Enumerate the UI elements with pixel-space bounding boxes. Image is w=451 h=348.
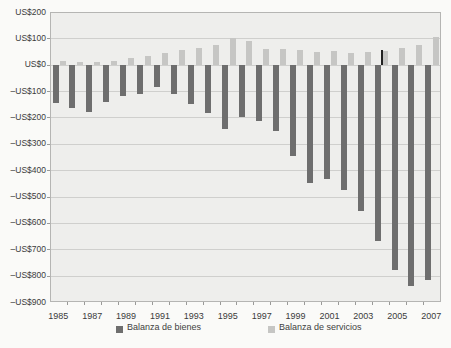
bar-bienes-1991 bbox=[154, 65, 160, 87]
x-axis-tick bbox=[169, 302, 170, 305]
y-axis-tick-label: –US$900 bbox=[0, 297, 46, 308]
bar-servicios-2000 bbox=[314, 52, 320, 64]
y-axis-tick-label: –US$500 bbox=[0, 191, 46, 202]
bar-servicios-1999 bbox=[297, 50, 303, 65]
bar-bienes-1998 bbox=[273, 65, 279, 131]
x-axis-tick bbox=[355, 302, 356, 305]
x-axis-tick bbox=[236, 302, 237, 305]
y-axis-tick bbox=[47, 144, 50, 145]
x-axis-tick-label: 1989 bbox=[109, 311, 143, 322]
x-axis-tick-label: 2005 bbox=[380, 311, 414, 322]
bar-bienes-2007 bbox=[425, 65, 431, 280]
x-axis-tick bbox=[118, 302, 119, 305]
bar-bienes-1990 bbox=[137, 65, 143, 94]
bar-bienes-2002 bbox=[341, 65, 347, 190]
x-axis-tick bbox=[203, 302, 204, 305]
bar-bienes-1993 bbox=[188, 65, 194, 105]
bar-servicios-2003 bbox=[365, 52, 371, 65]
gridline bbox=[51, 144, 440, 145]
x-axis-tick bbox=[186, 302, 187, 305]
x-axis-tick bbox=[101, 302, 102, 305]
x-axis-tick bbox=[270, 302, 271, 305]
x-axis-tick bbox=[372, 302, 373, 305]
bar-servicios-1991 bbox=[162, 53, 168, 65]
x-axis-tick-label: 1999 bbox=[279, 311, 313, 322]
bar-bienes-2000 bbox=[307, 65, 313, 184]
x-axis-tick bbox=[220, 302, 221, 305]
gridline bbox=[51, 65, 440, 66]
y-axis-tick bbox=[47, 65, 50, 66]
bar-bienes-2005 bbox=[392, 65, 398, 271]
gridline bbox=[51, 197, 440, 198]
y-axis-tick-label: US$100 bbox=[0, 33, 46, 44]
bar-servicios-2006 bbox=[416, 45, 422, 65]
bar-servicios-1990 bbox=[145, 56, 151, 65]
x-axis-tick-label: 1995 bbox=[211, 311, 245, 322]
x-axis-tick bbox=[135, 302, 136, 305]
gridline bbox=[51, 249, 440, 250]
bar-bienes-2001 bbox=[324, 65, 330, 180]
x-axis-tick bbox=[304, 302, 305, 305]
bar-bienes-1989 bbox=[120, 65, 126, 97]
x-axis-tick bbox=[253, 302, 254, 305]
gridline bbox=[51, 276, 440, 277]
x-axis-tick-label: 1997 bbox=[245, 311, 279, 322]
y-axis-tick bbox=[47, 117, 50, 118]
y-axis-tick-label: –US$400 bbox=[0, 165, 46, 176]
bar-servicios-2004 bbox=[382, 51, 388, 65]
print-artifact-line bbox=[381, 50, 383, 65]
y-axis-tick-label: US$200 bbox=[0, 7, 46, 18]
y-axis-tick-label: –US$700 bbox=[0, 244, 46, 255]
bar-servicios-1987 bbox=[94, 62, 100, 65]
chart-figure: Balanza de bienes Balanza de servicios U… bbox=[0, 0, 451, 348]
x-axis-tick bbox=[287, 302, 288, 305]
bar-bienes-2004 bbox=[375, 65, 381, 242]
bar-bienes-2003 bbox=[358, 65, 364, 211]
bar-servicios-2002 bbox=[348, 53, 354, 65]
bar-bienes-1985 bbox=[53, 65, 59, 103]
bar-bienes-1992 bbox=[171, 65, 177, 94]
y-axis-tick-label: –US$800 bbox=[0, 270, 46, 281]
bar-bienes-1988 bbox=[103, 65, 109, 102]
bar-bienes-1997 bbox=[256, 65, 262, 122]
bar-servicios-1986 bbox=[77, 62, 83, 65]
y-axis-tick-label: –US$100 bbox=[0, 86, 46, 97]
gridline bbox=[51, 38, 440, 39]
x-axis-tick-label: 1987 bbox=[75, 311, 109, 322]
bar-bienes-1994 bbox=[205, 65, 211, 114]
bar-bienes-1996 bbox=[239, 65, 245, 118]
y-axis-tick bbox=[47, 276, 50, 277]
bar-servicios-2007 bbox=[433, 37, 439, 65]
x-axis-tick bbox=[423, 302, 424, 305]
legend-label-bienes: Balanza de bienes bbox=[127, 322, 201, 333]
x-axis-tick bbox=[406, 302, 407, 305]
y-axis-tick bbox=[47, 170, 50, 171]
gridline bbox=[51, 117, 440, 118]
bar-servicios-1988 bbox=[111, 61, 117, 64]
y-axis-tick bbox=[47, 249, 50, 250]
x-axis-tick-label: 1991 bbox=[143, 311, 177, 322]
bar-servicios-2005 bbox=[399, 48, 405, 65]
y-axis-tick bbox=[47, 223, 50, 224]
bar-servicios-1985 bbox=[60, 61, 66, 65]
x-axis-tick bbox=[152, 302, 153, 305]
bar-servicios-1992 bbox=[179, 50, 185, 65]
x-axis-tick-label: 1985 bbox=[41, 311, 75, 322]
x-axis-tick bbox=[84, 302, 85, 305]
bar-bienes-1999 bbox=[290, 65, 296, 156]
bar-bienes-1986 bbox=[69, 65, 75, 109]
bar-bienes-1987 bbox=[86, 65, 92, 112]
x-axis-tick-label: 2001 bbox=[312, 311, 346, 322]
y-axis-tick bbox=[47, 197, 50, 198]
y-axis-tick-label: US$0 bbox=[0, 59, 46, 70]
bar-servicios-1995 bbox=[230, 38, 236, 64]
legend-label-servicios: Balanza de servicios bbox=[279, 322, 362, 333]
bar-servicios-1996 bbox=[246, 41, 252, 65]
plot-area bbox=[50, 12, 441, 302]
legend-swatch-bienes bbox=[116, 326, 123, 333]
x-axis-tick bbox=[389, 302, 390, 305]
bar-servicios-1997 bbox=[263, 49, 269, 65]
bar-servicios-1998 bbox=[280, 49, 286, 64]
x-axis-tick-label: 2003 bbox=[346, 311, 380, 322]
x-axis-tick-label: 1993 bbox=[177, 311, 211, 322]
